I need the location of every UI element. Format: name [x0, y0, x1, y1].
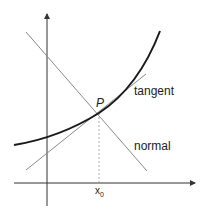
- normal-label: normal: [134, 140, 171, 152]
- tangent-label: tangent: [134, 85, 174, 97]
- tangent-normal-diagram: P tangent normal x0: [0, 0, 206, 219]
- point-p-label: P: [96, 97, 104, 109]
- normal-line: [26, 32, 147, 171]
- x0-label: x0: [95, 186, 104, 198]
- x0-subscript: 0: [100, 191, 104, 198]
